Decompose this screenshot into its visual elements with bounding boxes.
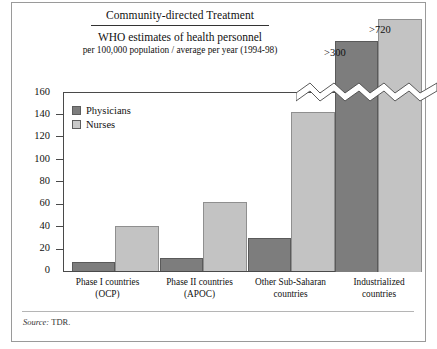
broken-axis-bars-layer [63,0,419,272]
x-axis-labels: Phase I countries (OCP) Phase II countri… [63,277,419,307]
y-tick-label: 80 [22,176,50,186]
x-label-other-sub-saharan: Other Sub-Saharan countries [241,277,340,300]
y-axis-tick [56,159,63,160]
x-label-phase-i: Phase I countries (OCP) [61,277,154,300]
figure-container: Community-directed Treatment WHO estimat… [0,0,437,349]
x-label-line2: countries [241,289,340,301]
bar-nurses-industrialized [378,19,422,272]
y-tick-label: 140 [22,109,50,119]
x-label-line2: (OCP) [61,289,154,301]
y-tick-label: 60 [22,198,50,208]
y-tick-label: 40 [22,221,50,231]
value-label-physicians-industrialized: >300 [324,47,346,58]
y-tick-label: 120 [22,131,50,141]
y-tick-label: 20 [22,243,50,253]
y-tick-label: 0 [22,265,50,275]
y-axis-tick [56,136,63,137]
source-note: Source: TDR. [23,317,70,327]
x-label-line2: countries [335,289,423,301]
x-label-line1: Phase I countries [76,277,140,287]
y-tick-label: 160 [22,87,50,97]
legend-swatch-physicians-icon [72,106,81,115]
y-axis-tick [56,181,63,182]
x-label-phase-ii: Phase II countries (APOC) [153,277,246,300]
x-label-line1: Industrialized [353,277,404,287]
x-label-line2: (APOC) [153,289,246,301]
bar-physicians-industrialized [335,41,378,272]
source-divider [22,311,414,312]
legend-swatch-nurses-icon [72,120,81,129]
y-axis-tick [56,114,63,115]
source-label: Source: [23,317,49,327]
y-axis-tick [56,249,63,250]
x-label-line1: Phase II countries [166,277,233,287]
y-axis-tick [56,204,63,205]
legend-label-physicians: Physicians [86,105,131,116]
y-axis-tick [56,226,63,227]
x-label-industrialized: Industrialized countries [335,277,423,300]
source-value: TDR. [51,317,70,327]
legend-item-physicians: Physicians [72,104,131,117]
legend: Physicians Nurses [72,104,131,132]
value-label-nurses-industrialized: >720 [369,24,391,35]
y-tick-label: 100 [22,154,50,164]
legend-item-nurses: Nurses [72,118,131,131]
x-label-line1: Other Sub-Saharan [255,277,326,287]
legend-label-nurses: Nurses [86,119,115,130]
